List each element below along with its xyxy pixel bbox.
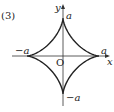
left-cusp-label: −a	[15, 46, 29, 56]
x-axis-label: x	[107, 57, 113, 67]
y-axis-label: y	[55, 3, 61, 13]
problem-number: (3)	[1, 11, 15, 21]
top-cusp-label: a	[66, 11, 72, 21]
astroid-diagram	[0, 0, 114, 112]
y-axis-arrow-icon	[61, 4, 65, 9]
bottom-cusp-label: −a	[66, 93, 80, 103]
origin-label: O	[56, 58, 64, 68]
right-cusp-label: a	[101, 46, 107, 56]
